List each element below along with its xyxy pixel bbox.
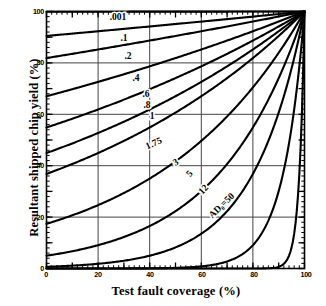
svg-text:.001: .001 xyxy=(110,12,127,22)
svg-text:.4: .4 xyxy=(132,73,139,83)
svg-text:.8: .8 xyxy=(143,100,150,110)
curve-label: 11 xyxy=(150,111,155,121)
curve-label: 1.751.75 xyxy=(144,135,163,151)
svg-text:5: 5 xyxy=(184,168,195,178)
svg-text:1.75: 1.75 xyxy=(144,135,163,151)
svg-text:.2: .2 xyxy=(124,51,131,61)
curve-label: .4.4 xyxy=(132,73,139,83)
curve-label: .8.8 xyxy=(143,100,150,110)
curve-label: .1.1 xyxy=(120,33,127,43)
axis-minor-ticks xyxy=(47,12,305,269)
curve-label: 55 xyxy=(184,168,195,178)
defect-level-chart: Resultant shipped chip yield (%) Test fa… xyxy=(0,0,326,306)
axis-major-ticks xyxy=(47,12,305,269)
svg-text:1: 1 xyxy=(150,111,155,121)
svg-text:.1: .1 xyxy=(120,33,127,43)
curve-group xyxy=(47,12,305,269)
curve-label: .001.001 xyxy=(110,12,127,22)
svg-text:.6: .6 xyxy=(142,89,149,99)
plot-canvas: .001.001.1.1.2.2.4.4.6.6.8.8111.751.7533… xyxy=(0,0,326,306)
gridlines xyxy=(47,12,305,269)
curve-label: .2.2 xyxy=(124,51,131,61)
curve-label: .6.6 xyxy=(142,89,149,99)
plot-frame xyxy=(47,12,305,269)
